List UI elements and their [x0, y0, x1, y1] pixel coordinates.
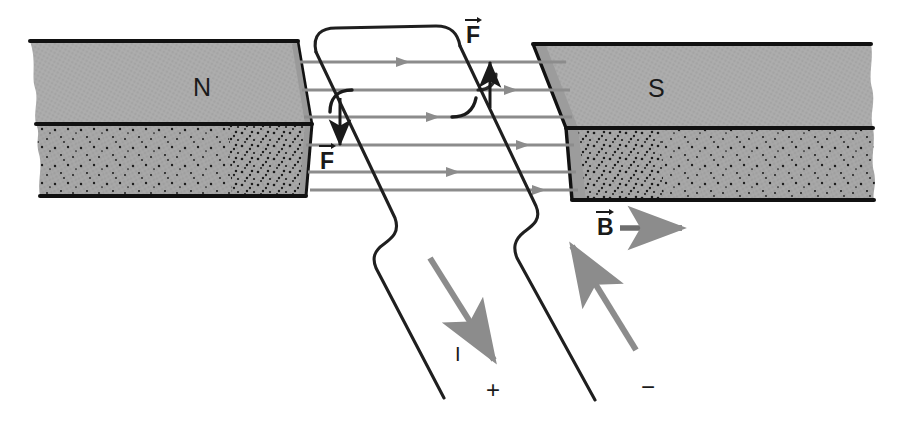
negative-terminal-label: − [641, 375, 655, 399]
field-lines [300, 62, 578, 190]
pole-label-south: S [648, 76, 665, 101]
right-magnet-top-face [533, 44, 873, 128]
force-up-label: F [466, 24, 480, 47]
current-label: I [455, 344, 461, 364]
wire-loop-top [315, 26, 460, 52]
wire-left-conductor [316, 52, 444, 398]
b-vector-label-text: B [597, 214, 614, 240]
left-magnet-top-face [30, 41, 312, 124]
b-vector-label: B [597, 216, 614, 239]
force-up-vector-tip [477, 17, 482, 23]
field-distortion-hook-right [452, 98, 476, 117]
current-arrows [430, 246, 636, 360]
force-down-label-text: F [320, 148, 334, 174]
current-in-arrow [430, 258, 494, 360]
force-down-vector-tip [331, 143, 336, 149]
diagram-svg [0, 0, 901, 432]
left-magnet [30, 41, 312, 196]
right-magnet [533, 44, 875, 200]
current-out-arrow [572, 246, 636, 350]
force-down-label: F [320, 150, 334, 173]
b-vector-tip [609, 209, 614, 215]
figure-canvas: N S F F B I + − [0, 0, 901, 432]
force-up-label-text: F [466, 22, 480, 48]
positive-terminal-label: + [486, 378, 500, 402]
pole-label-north: N [193, 75, 212, 100]
left-magnet-pole-shadow [228, 124, 312, 196]
